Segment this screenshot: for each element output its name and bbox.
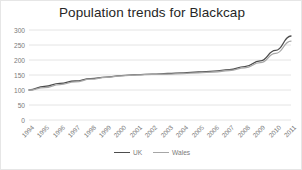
- legend-label: UK: [133, 149, 142, 156]
- y-axis-tick-label: 50: [1, 102, 25, 109]
- plot-area: [29, 30, 291, 120]
- series-lines: [29, 30, 291, 120]
- legend-line-icon: [114, 152, 130, 153]
- y-axis: 050100150200250300: [1, 30, 25, 120]
- y-axis-tick-label: 250: [1, 42, 25, 49]
- series-line-uk: [29, 36, 291, 90]
- y-axis-tick-label: 100: [1, 87, 25, 94]
- y-axis-tick-label: 300: [1, 27, 25, 34]
- y-axis-tick-label: 150: [1, 72, 25, 79]
- chart-container: Population trends for Blackcap 050100150…: [0, 0, 302, 170]
- legend-item-wales[interactable]: Wales: [153, 149, 190, 156]
- legend-line-icon: [153, 152, 169, 153]
- chart-title: Population trends for Blackcap: [1, 5, 302, 20]
- x-axis: 1994199519961997199819992000200120022003…: [29, 120, 291, 148]
- legend-item-uk[interactable]: UK: [114, 149, 142, 156]
- legend-label: Wales: [172, 149, 190, 156]
- series-line-wales: [29, 41, 291, 90]
- chart-legend: UKWales: [1, 149, 302, 156]
- y-axis-tick-label: 0: [1, 117, 25, 124]
- y-axis-tick-label: 200: [1, 57, 25, 64]
